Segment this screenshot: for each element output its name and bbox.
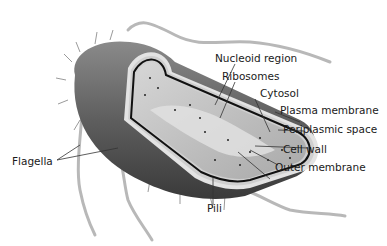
- label-flagella: Flagella: [12, 156, 53, 167]
- label-plasma-membrane: Plasma membrane: [280, 105, 379, 116]
- label-periplasmic-space: Periplasmic space: [283, 124, 377, 135]
- label-ribosomes: Ribosomes: [222, 71, 279, 82]
- flagellum-bottom-right: [240, 188, 345, 216]
- label-nucleoid-region: Nucleoid region: [215, 53, 297, 64]
- label-outer-membrane: Outer membrane: [275, 162, 366, 173]
- label-cell-wall: Cell wall: [283, 144, 327, 155]
- label-cytosol: Cytosol: [260, 88, 299, 99]
- label-pili: Pili: [207, 203, 222, 214]
